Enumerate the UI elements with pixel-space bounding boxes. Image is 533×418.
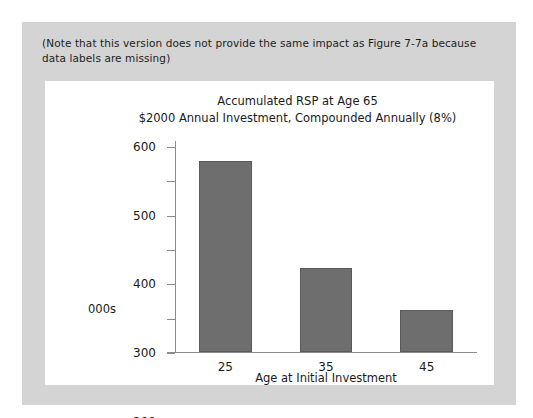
chart-title-block: Accumulated RSP at Age 65 $2000 Annual I… bbox=[105, 93, 490, 127]
slide-panel: (Note that this version does not provide… bbox=[22, 22, 516, 405]
x-axis-title: Age at Initial Investment bbox=[175, 371, 477, 385]
bar bbox=[300, 268, 352, 352]
y-tick-label: 400 bbox=[133, 277, 156, 291]
y-tick-mark: 200 bbox=[167, 284, 175, 285]
y-tick-label: 200 bbox=[133, 415, 156, 418]
y-axis-title: 000s bbox=[88, 302, 116, 316]
y-axis-line bbox=[175, 141, 176, 353]
y-tick-mark: 100 bbox=[167, 319, 175, 320]
note-text: (Note that this version does not provide… bbox=[42, 36, 492, 66]
y-tick-label: 300 bbox=[133, 346, 156, 360]
chart-title: Accumulated RSP at Age 65 bbox=[105, 93, 490, 110]
y-tick-mark: 300 bbox=[167, 250, 175, 251]
chart-card: Accumulated RSP at Age 65 $2000 Annual I… bbox=[45, 81, 494, 385]
figure-root: (Note that this version does not provide… bbox=[0, 0, 533, 418]
bar bbox=[400, 310, 452, 352]
y-tick-label: 500 bbox=[133, 209, 156, 223]
y-tick-mark: 600 bbox=[167, 147, 175, 148]
x-axis-line bbox=[167, 352, 477, 353]
plot-area: 0100200300400500600 253545 bbox=[175, 147, 477, 353]
y-tick-mark: 0 bbox=[167, 353, 175, 354]
y-tick-mark: 400 bbox=[167, 216, 175, 217]
bar bbox=[199, 161, 251, 352]
chart-subtitle: $2000 Annual Investment, Compounded Annu… bbox=[105, 110, 490, 127]
y-tick-label: 600 bbox=[133, 140, 156, 154]
y-tick-mark: 500 bbox=[167, 181, 175, 182]
